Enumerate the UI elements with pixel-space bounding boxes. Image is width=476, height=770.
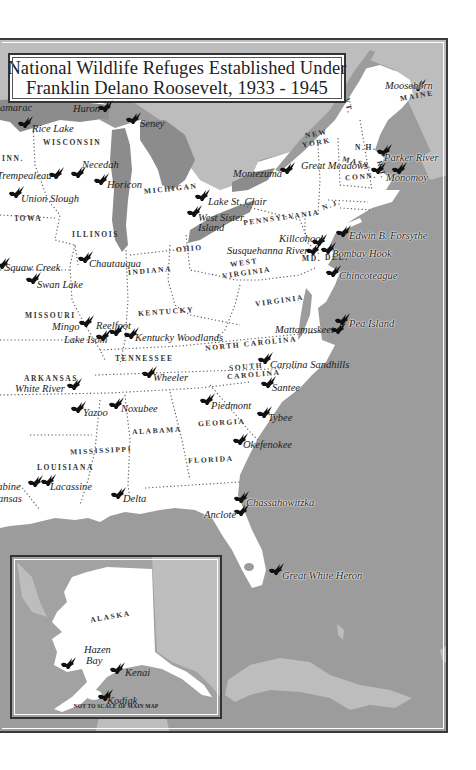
refuge-label: Monomoy xyxy=(386,172,428,183)
refuge-label: Great Meadows xyxy=(301,160,368,171)
refuge-label: Great White Heron xyxy=(282,570,362,581)
state-label: IOWA xyxy=(15,215,42,223)
refuge-label: Piedmont xyxy=(211,400,251,411)
refuge-label: Susquehanna River xyxy=(227,245,308,256)
refuge-label: ansas xyxy=(0,493,22,504)
cuba xyxy=(225,658,412,710)
refuge-label: Carolina Sandhills xyxy=(270,359,349,370)
refuge-label: Swan Lake xyxy=(37,279,83,290)
refuge-label: Mooseborn xyxy=(385,80,433,91)
refuge-label: Kenai xyxy=(125,667,150,678)
refuge-label: Santee xyxy=(272,382,300,393)
duck-refuge-icon xyxy=(66,378,84,392)
alaska-shapes xyxy=(12,557,220,717)
state-label: ILLINOIS xyxy=(72,231,119,239)
bahamas-island xyxy=(337,624,344,640)
refuge-label: Seney xyxy=(140,118,164,129)
map-frame: National Wildlife Refuges Established Un… xyxy=(0,38,448,733)
refuge-label: Lake Isom xyxy=(64,334,107,345)
refuge-label: Hazen xyxy=(84,644,111,655)
refuge-label: Bombay Hook xyxy=(332,248,392,259)
refuge-label: Tybee xyxy=(268,412,292,423)
refuge-label: Rice Lake xyxy=(32,123,74,134)
refuge-label: amarac xyxy=(0,102,32,113)
refuge-label: Chassahowitzka xyxy=(246,497,314,508)
refuge-label: Trempealeau xyxy=(0,170,51,181)
refuge-label: Okefenokee xyxy=(243,439,292,450)
hispaniola-edge xyxy=(440,645,448,665)
state-label: INN. xyxy=(2,155,24,163)
refuge-label: Lacassine xyxy=(50,481,92,492)
refuge-label: Montezuma xyxy=(233,168,282,179)
refuge-label: Pea Island xyxy=(349,318,394,329)
state-label: MISSOURI xyxy=(25,312,76,320)
refuge-label: Lake St. Clair xyxy=(208,196,267,207)
refuge-label: Mattamuskeet xyxy=(275,324,334,335)
refuge-label: Chincoteague xyxy=(339,270,397,281)
refuge-label: Edwin B. Forsythe xyxy=(349,230,427,241)
refuge-label: Noxubee xyxy=(121,403,158,414)
refuge-label: Yazoo xyxy=(83,407,108,418)
map-title-box: National Wildlife Refuges Established Un… xyxy=(8,53,346,103)
refuge-label: White River xyxy=(15,383,65,394)
map-title-line-1: National Wildlife Refuges Established Un… xyxy=(7,58,346,78)
refuge-label: Chautauqua xyxy=(89,258,141,269)
refuge-label: Island xyxy=(198,222,224,233)
inset-scale-note: NOT TO SCALE OF MAIN MAP xyxy=(12,703,220,709)
refuge-label: Huron xyxy=(73,103,100,114)
lake-okeechobee xyxy=(244,563,254,571)
state-label: VT. xyxy=(343,97,354,115)
state-label: WISCONSIN xyxy=(43,139,101,147)
refuge-label: Wheeler xyxy=(153,372,188,383)
alaska-inset-map: ALASKA HazenBayKenaiKodiak NOT TO SCALE … xyxy=(10,555,222,719)
state-label: TENNESSEE xyxy=(115,355,174,363)
refuge-label: Union Slough xyxy=(21,193,79,204)
refuge-label: Bay xyxy=(86,655,102,666)
state-label: LOUISIANA xyxy=(37,464,94,472)
refuge-label: Mingo xyxy=(52,321,79,332)
duck-refuge-icon xyxy=(60,657,78,671)
map-title-line-2: Franklin Delano Roosevelt, 1933 - 1945 xyxy=(26,78,328,98)
refuge-label: Horicon xyxy=(107,179,142,190)
refuge-label: Necedah xyxy=(82,159,119,170)
refuge-label: Delta xyxy=(123,493,146,504)
state-label: N.H. xyxy=(355,144,376,152)
siberia-edge xyxy=(17,562,47,617)
refuge-label: Sabine xyxy=(0,481,21,492)
refuge-label: Anclote xyxy=(204,509,236,520)
refuge-label: Kentucky Woodlands xyxy=(135,332,223,343)
duck-refuge-icon xyxy=(78,315,96,329)
